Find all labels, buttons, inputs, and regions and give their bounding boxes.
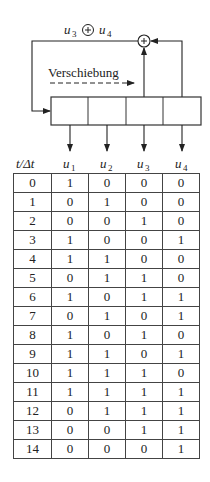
state-cell-u3: 0 bbox=[126, 250, 163, 269]
state-cell-u3: 1 bbox=[126, 421, 163, 440]
feedback-label: u 3 u 4 bbox=[64, 22, 112, 39]
state-cell-u4: 1 bbox=[163, 421, 200, 440]
svg-text:4: 4 bbox=[183, 163, 188, 172]
table-row: 61011 bbox=[14, 288, 200, 307]
table-row: 01000 bbox=[14, 174, 200, 193]
svg-text:u: u bbox=[175, 156, 182, 171]
state-cell-u3: 1 bbox=[126, 402, 163, 421]
state-cell-u2: 0 bbox=[89, 288, 126, 307]
tap-u4-wire bbox=[151, 41, 182, 97]
state-cell-u4: 0 bbox=[163, 174, 200, 193]
state-cell-u1: 1 bbox=[52, 231, 89, 250]
state-cell-u4: 1 bbox=[163, 402, 200, 421]
state-cell-u1: 1 bbox=[52, 345, 89, 364]
shift-register bbox=[51, 97, 201, 125]
time-cell: 12 bbox=[14, 402, 52, 421]
state-cell-u1: 1 bbox=[52, 364, 89, 383]
state-cell-u1: 1 bbox=[52, 250, 89, 269]
state-cell-u4: 1 bbox=[163, 231, 200, 250]
table-row: 130011 bbox=[14, 421, 200, 440]
svg-text:3: 3 bbox=[145, 163, 150, 172]
svg-text:u: u bbox=[137, 156, 144, 171]
state-cell-u4: 0 bbox=[163, 364, 200, 383]
time-cell: 13 bbox=[14, 421, 52, 440]
state-cell-u1: 0 bbox=[52, 212, 89, 231]
state-cell-u4: 0 bbox=[163, 193, 200, 212]
table-row: 140001 bbox=[14, 440, 200, 459]
state-cell-u2: 0 bbox=[89, 174, 126, 193]
state-cell-u2: 1 bbox=[89, 269, 126, 288]
table-row: 50110 bbox=[14, 269, 200, 288]
svg-text:u: u bbox=[100, 156, 107, 171]
table-row: 20010 bbox=[14, 212, 200, 231]
state-cell-u3: 0 bbox=[126, 345, 163, 364]
state-cell-u2: 0 bbox=[89, 231, 126, 250]
state-cell-u4: 0 bbox=[163, 326, 200, 345]
header-u4: u 4 bbox=[175, 156, 188, 172]
table-row: 91101 bbox=[14, 345, 200, 364]
time-cell: 0 bbox=[14, 174, 52, 193]
svg-text:u: u bbox=[64, 22, 71, 37]
state-cell-u2: 0 bbox=[89, 326, 126, 345]
state-cell-u2: 0 bbox=[89, 421, 126, 440]
state-cell-u3: 1 bbox=[126, 212, 163, 231]
state-cell-u4: 0 bbox=[163, 212, 200, 231]
state-cell-u3: 0 bbox=[126, 231, 163, 250]
state-cell-u4: 1 bbox=[163, 288, 200, 307]
header-time: t/Δt bbox=[16, 156, 35, 171]
state-sequence-table: 0100010100200103100141100501106101170101… bbox=[13, 173, 200, 459]
state-cell-u1: 1 bbox=[52, 383, 89, 402]
time-cell: 6 bbox=[14, 288, 52, 307]
xor-gate-icon bbox=[138, 35, 150, 47]
state-cell-u4: 0 bbox=[163, 269, 200, 288]
time-cell: 10 bbox=[14, 364, 52, 383]
state-cell-u3: 1 bbox=[126, 288, 163, 307]
state-cell-u2: 1 bbox=[89, 345, 126, 364]
svg-text:2: 2 bbox=[108, 163, 113, 172]
state-cell-u3: 0 bbox=[126, 193, 163, 212]
header-u3: u 3 bbox=[137, 156, 150, 172]
state-cell-u2: 1 bbox=[89, 250, 126, 269]
svg-text:u: u bbox=[99, 22, 106, 37]
svg-text:3: 3 bbox=[72, 29, 77, 39]
time-cell: 1 bbox=[14, 193, 52, 212]
time-cell: 5 bbox=[14, 269, 52, 288]
time-cell: 9 bbox=[14, 345, 52, 364]
state-cell-u1: 0 bbox=[52, 440, 89, 459]
table-row: 120111 bbox=[14, 402, 200, 421]
state-cell-u2: 0 bbox=[89, 212, 126, 231]
time-cell: 8 bbox=[14, 326, 52, 345]
state-cell-u4: 1 bbox=[163, 345, 200, 364]
time-cell: 2 bbox=[14, 212, 52, 231]
state-cell-u3: 1 bbox=[126, 326, 163, 345]
lfsr-diagram: u 3 u 4 Verschiebung t/Δt u 1 u 2 bbox=[0, 0, 210, 172]
header-u2: u 2 bbox=[100, 156, 113, 172]
state-cell-u2: 1 bbox=[89, 402, 126, 421]
state-cell-u3: 0 bbox=[126, 307, 163, 326]
state-cell-u1: 0 bbox=[52, 269, 89, 288]
state-cell-u3: 0 bbox=[126, 174, 163, 193]
time-cell: 7 bbox=[14, 307, 52, 326]
svg-text:1: 1 bbox=[71, 163, 76, 172]
state-cell-u4: 0 bbox=[163, 250, 200, 269]
table-row: 70101 bbox=[14, 307, 200, 326]
svg-text:u: u bbox=[63, 156, 70, 171]
shift-label: Verschiebung bbox=[48, 65, 119, 80]
state-cell-u4: 1 bbox=[163, 307, 200, 326]
state-cell-u3: 1 bbox=[126, 364, 163, 383]
table-row: 81010 bbox=[14, 326, 200, 345]
state-cell-u4: 1 bbox=[163, 383, 200, 402]
state-cell-u1: 1 bbox=[52, 288, 89, 307]
state-cell-u2: 1 bbox=[89, 307, 126, 326]
table-row: 31001 bbox=[14, 231, 200, 250]
state-cell-u1: 0 bbox=[52, 307, 89, 326]
state-cell-u2: 1 bbox=[89, 383, 126, 402]
state-cell-u1: 0 bbox=[52, 193, 89, 212]
state-cell-u1: 1 bbox=[52, 174, 89, 193]
state-cell-u3: 0 bbox=[126, 440, 163, 459]
time-cell: 3 bbox=[14, 231, 52, 250]
state-cell-u2: 1 bbox=[89, 364, 126, 383]
state-cell-u3: 1 bbox=[126, 383, 163, 402]
state-cell-u2: 1 bbox=[89, 193, 126, 212]
state-cell-u1: 0 bbox=[52, 421, 89, 440]
